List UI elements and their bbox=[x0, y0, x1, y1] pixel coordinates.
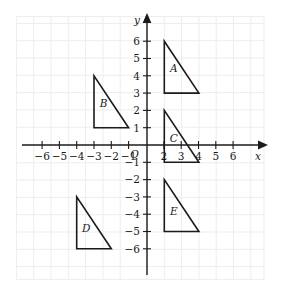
origin-label: O bbox=[130, 148, 139, 160]
x-tick-label: −6 bbox=[34, 150, 50, 162]
x-tick-label: −2 bbox=[104, 150, 119, 162]
coordinate-plane-figure: −6 −5 −4 −3 −2 −1 2 3 4 5 6 6 5 4 3 2 1 … bbox=[0, 0, 281, 297]
y-tick-label: 3 bbox=[133, 87, 140, 99]
x-tick-label: 6 bbox=[230, 150, 237, 162]
grid-lines bbox=[16, 17, 264, 280]
x-tick-label: 4 bbox=[195, 150, 202, 162]
x-tick-label: −3 bbox=[86, 150, 101, 162]
triangle-c-label: C bbox=[170, 132, 178, 144]
x-tick-label: 5 bbox=[212, 150, 219, 162]
x-axis-arrowhead bbox=[258, 141, 268, 150]
y-tick-label: −5 bbox=[125, 225, 140, 237]
y-tick-label: 6 bbox=[133, 35, 140, 47]
y-tick-label: 2 bbox=[133, 104, 140, 116]
y-tick-label: 1 bbox=[133, 122, 140, 134]
y-tick-label: −2 bbox=[125, 173, 140, 185]
coordinate-plane-svg: −6 −5 −4 −3 −2 −1 2 3 4 5 6 6 5 4 3 2 1 … bbox=[0, 0, 281, 297]
x-tick-label: −4 bbox=[69, 150, 85, 162]
x-tick-label: 3 bbox=[178, 150, 185, 162]
triangle-a-label: A bbox=[169, 62, 178, 74]
triangle-b-label: B bbox=[99, 97, 108, 109]
y-tick-label: −6 bbox=[125, 243, 141, 255]
y-axis-arrowhead bbox=[143, 13, 152, 23]
y-tick-label: −4 bbox=[125, 208, 141, 220]
y-axis-label: y bbox=[133, 14, 141, 26]
y-tick-label: 4 bbox=[133, 70, 140, 82]
x-tick-label: −5 bbox=[52, 150, 67, 162]
triangle-d-label: D bbox=[81, 222, 91, 234]
x-axis-label: x bbox=[255, 150, 261, 162]
y-tick-label: 5 bbox=[133, 52, 140, 64]
y-tick-label: −3 bbox=[125, 191, 140, 203]
triangle-e-label: E bbox=[169, 205, 178, 217]
